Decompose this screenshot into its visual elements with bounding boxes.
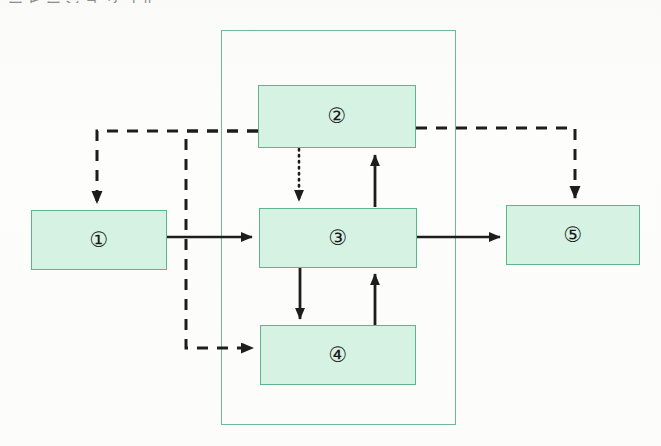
edge-n2-to-n5 <box>416 128 575 198</box>
node-1[interactable]: ① <box>31 210 167 270</box>
node-1-label: ① <box>90 230 109 251</box>
edge-n2-to-n4 <box>186 131 258 348</box>
node-3-label: ③ <box>329 228 348 249</box>
node-3[interactable]: ③ <box>259 208 417 268</box>
node-4-label: ④ <box>329 345 348 366</box>
diagram-canvas: ーヒージョンゴル、 ① <box>0 0 661 446</box>
node-5-label: ⑤ <box>564 225 583 246</box>
edge-n2-to-n1 <box>97 131 258 203</box>
node-2[interactable]: ② <box>258 85 416 148</box>
node-4[interactable]: ④ <box>260 325 416 385</box>
node-5[interactable]: ⑤ <box>506 205 640 265</box>
node-2-label: ② <box>328 106 347 127</box>
